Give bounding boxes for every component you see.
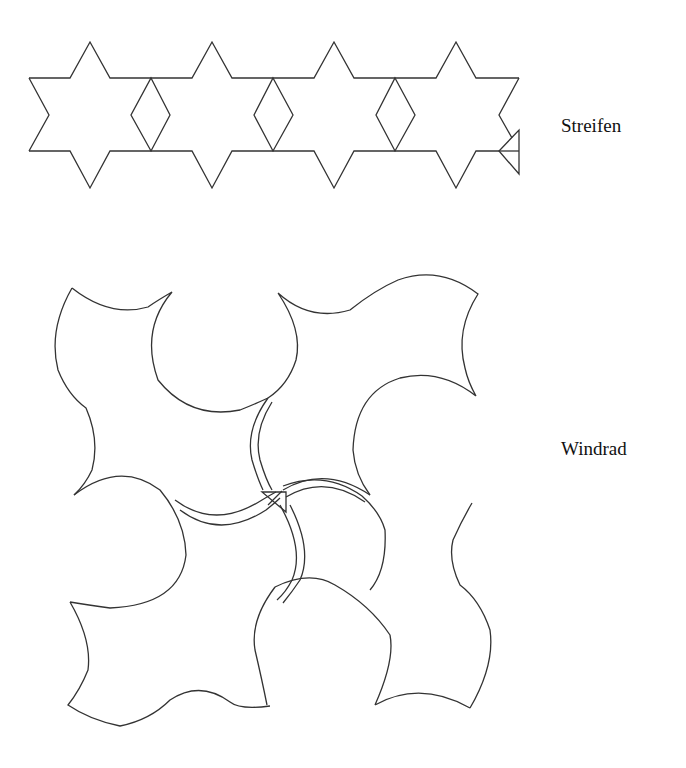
rhombus-3 xyxy=(376,78,415,151)
tile-bottom-right xyxy=(254,503,491,708)
strip-right-end xyxy=(499,78,519,138)
strip-bottom-edge xyxy=(29,151,499,188)
double-arc-lower-inner xyxy=(283,505,305,603)
center-triangle-marker xyxy=(262,492,286,512)
strip-top-edge xyxy=(29,42,519,78)
double-arc-left-outer xyxy=(175,492,276,515)
tile-top-right xyxy=(268,275,478,495)
double-arc-right-inner xyxy=(286,487,365,502)
label-streifen: Streifen xyxy=(561,115,621,137)
double-arc-upper-inner xyxy=(258,402,272,490)
tile-top-left xyxy=(55,288,268,495)
label-windrad: Windrad xyxy=(561,438,627,460)
windrad-tiling xyxy=(55,275,491,726)
rhombus-2 xyxy=(254,78,293,151)
rhombus-1 xyxy=(131,78,170,151)
tile-bottom-left xyxy=(68,476,270,726)
figure-canvas: Streifen Windrad xyxy=(0,0,686,768)
triangle-marker xyxy=(499,130,519,174)
strip-left-end xyxy=(29,78,49,151)
streifen-strip xyxy=(29,42,519,188)
center-arc-right-inner xyxy=(283,480,385,590)
double-arc-lower-outer xyxy=(277,505,296,600)
